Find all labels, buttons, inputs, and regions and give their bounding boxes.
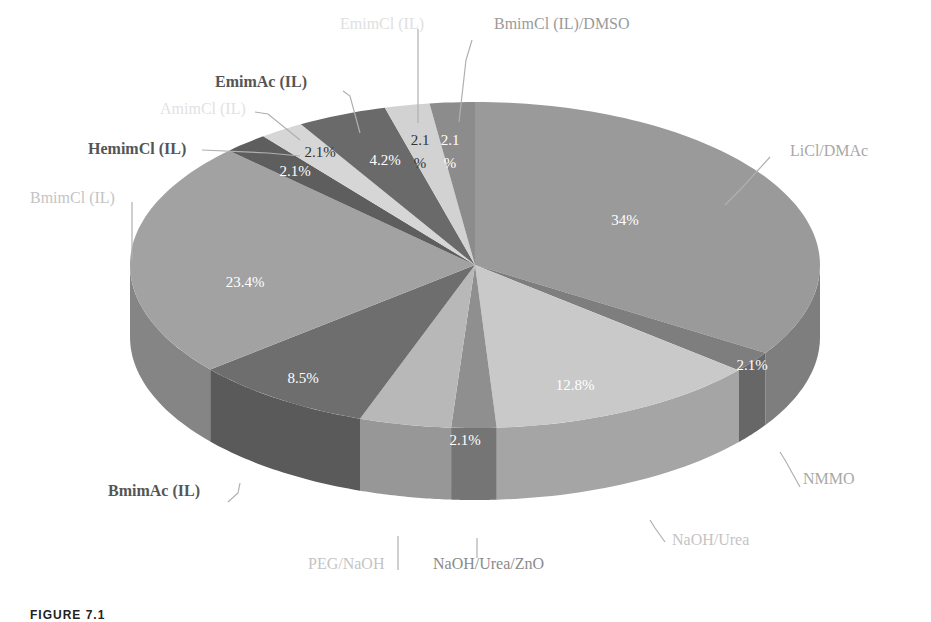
pct-dmso-value: 2.1 [441, 132, 460, 149]
label-bmimac: BmimAc (IL) [108, 482, 200, 500]
pct-bmimcl: 23.4% [226, 274, 265, 291]
pct-dmso-sign: % [444, 155, 457, 172]
leader-bmimac [228, 483, 240, 502]
pct-amimcl: 2.1% [304, 144, 335, 161]
label-peg-naoh: PEG/NaOH [308, 555, 384, 573]
label-nmmo: NMMO [803, 470, 855, 488]
label-bmimcl-dmso: BmimCl (IL)/DMSO [494, 15, 630, 33]
label-licl-dmac: LiCl/DMAc [790, 142, 868, 160]
label-bmimcl: BmimCl (IL) [30, 189, 115, 207]
pct-hemimcl: 2.1% [279, 163, 310, 180]
pct-emimac: 4.2% [369, 152, 400, 169]
pct-bmimac: 8.5% [287, 370, 318, 387]
label-hemimcl: HemimCl (IL) [88, 140, 186, 158]
pct-nmmo: 2.1% [736, 357, 767, 374]
pie-side-4 [360, 419, 451, 500]
label-emimac: EmimAc (IL) [215, 73, 307, 91]
pct-licl: 34% [611, 212, 639, 229]
pct-naoh-urea-zno: 2.1% [449, 432, 480, 449]
pct-emimcl-sign: % [414, 155, 427, 172]
leader-naoh-urea [650, 520, 665, 542]
pct-naoh-urea: 12.8% [556, 377, 595, 394]
label-naoh-urea-zno: NaOH/Urea/ZnO [433, 555, 544, 573]
label-emimcl: EmimCl (IL) [340, 15, 424, 33]
label-naoh-urea: NaOH/Urea [672, 531, 749, 549]
leader-nmmo [780, 452, 800, 487]
label-amimcl: AmimCl (IL) [160, 100, 246, 118]
figure-caption: FIGURE 7.1 [30, 608, 105, 622]
pct-emimcl-value: 2.1 [411, 132, 430, 149]
